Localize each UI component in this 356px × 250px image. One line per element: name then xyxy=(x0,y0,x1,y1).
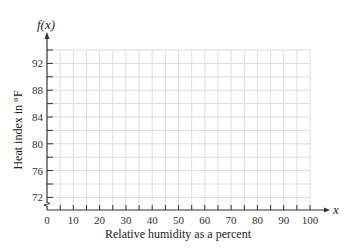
y-tick-label: 76 xyxy=(32,165,44,177)
x-axis-arrow-icon xyxy=(324,208,330,213)
x-tick-label: 100 xyxy=(302,214,319,226)
y-axis-variable: f(x) xyxy=(37,17,55,32)
x-tick-label: 80 xyxy=(252,214,264,226)
x-tick-label: 50 xyxy=(173,214,185,226)
x-tick-label: 90 xyxy=(278,214,290,226)
y-tick-label: 72 xyxy=(32,191,43,203)
x-tick-label: 0 xyxy=(44,214,50,226)
x-tick-label: 60 xyxy=(199,214,211,226)
y-tick-labels: 92 88 84 80 76 72 xyxy=(32,57,44,203)
y-tick-label: 92 xyxy=(32,57,43,69)
y-tick-label: 84 xyxy=(32,111,44,123)
x-axis-title: Relative humidity as a percent xyxy=(105,227,252,241)
x-tick-label: 30 xyxy=(120,214,132,226)
x-tick-label: 40 xyxy=(147,214,159,226)
y-tick-label: 88 xyxy=(32,84,44,96)
x-tick-label: 10 xyxy=(68,214,80,226)
y-ticks xyxy=(47,50,53,197)
y-axis-arrow-icon xyxy=(45,32,50,39)
x-tick-label: 20 xyxy=(94,214,106,226)
y-axis-title: Heat index in °F xyxy=(11,90,25,169)
x-ticks xyxy=(60,205,310,210)
chart: 0 10 20 30 40 50 60 70 80 90 100 92 88 8… xyxy=(0,0,356,250)
y-tick-label: 80 xyxy=(32,138,44,150)
grid xyxy=(47,50,310,210)
x-tick-label: 70 xyxy=(226,214,238,226)
x-tick-labels: 0 10 20 30 40 50 60 70 80 90 100 xyxy=(44,214,319,226)
x-axis-variable: x xyxy=(332,202,339,217)
